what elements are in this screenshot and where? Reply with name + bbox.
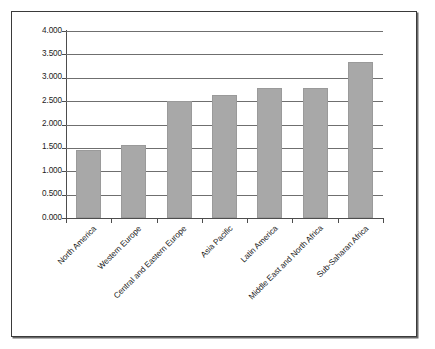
bar	[348, 62, 373, 218]
x-axis-tick-mark	[66, 219, 67, 223]
gridline	[66, 54, 383, 55]
y-axis-tick-label: 3.000	[18, 72, 62, 81]
x-axis-tick-mark	[111, 219, 112, 223]
y-axis-tick-mark	[62, 171, 66, 172]
x-axis-tick-mark	[292, 219, 293, 223]
plot-area	[66, 31, 383, 218]
bar	[303, 88, 328, 218]
gridline	[66, 31, 383, 32]
y-axis-tick-mark	[62, 148, 66, 149]
x-axis-tick-mark	[247, 219, 248, 223]
bar	[167, 101, 192, 218]
x-axis-tick-mark	[338, 219, 339, 223]
bar	[121, 145, 146, 218]
bar	[212, 95, 237, 218]
y-axis-tick-label: 0.000	[18, 213, 62, 222]
x-axis-tick-mark	[383, 219, 384, 223]
y-axis-tick-mark	[62, 54, 66, 55]
y-axis-tick-label: 0.500	[18, 189, 62, 198]
y-axis-tick-label: 4.000	[18, 26, 62, 35]
y-axis-tick-labels: 0.0000.5001.0001.5002.0002.5003.0003.500…	[14, 0, 62, 349]
y-axis-tick-mark	[62, 195, 66, 196]
gridline	[66, 78, 383, 79]
y-axis-tick-label: 1.000	[18, 166, 62, 175]
bar	[257, 88, 282, 218]
x-axis-tick-mark	[157, 219, 158, 223]
x-axis-tick-mark	[202, 219, 203, 223]
y-axis-tick-label: 1.500	[18, 142, 62, 151]
y-axis-tick-label: 2.000	[18, 119, 62, 128]
y-axis-tick-label: 2.500	[18, 96, 62, 105]
y-axis-tick-mark	[62, 125, 66, 126]
y-axis-tick-mark	[62, 31, 66, 32]
y-axis-tick-mark	[62, 101, 66, 102]
chart-figure: Positive Peace Score 0.0000.5001.0001.50…	[0, 0, 435, 349]
y-axis-tick-label: 3.500	[18, 49, 62, 58]
y-axis-tick-mark	[62, 78, 66, 79]
bar	[76, 150, 101, 218]
